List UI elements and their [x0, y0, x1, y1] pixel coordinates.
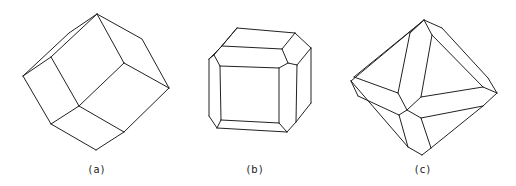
crystal-edge [421, 118, 431, 148]
crystal-edge [97, 14, 169, 88]
crystal-edge [220, 66, 279, 68]
crystal-edge [221, 120, 279, 123]
crystal-edge [407, 110, 421, 118]
crystal-edge [351, 81, 408, 147]
crystal-edge [483, 93, 497, 106]
crystal-edge [296, 65, 297, 122]
crystal-edge [237, 28, 295, 33]
figure-c-truncated-octahedron [351, 20, 497, 155]
figure-label-c: (c) [415, 164, 431, 175]
crystal-edge [279, 123, 287, 132]
crystal-figures-canvas [0, 0, 516, 186]
crystal-edge [96, 132, 124, 150]
crystal-edge [296, 103, 311, 122]
crystal-edge [220, 66, 221, 120]
crystal-edge [398, 93, 407, 110]
crystal-edge [51, 124, 96, 150]
crystal-edge [424, 20, 442, 28]
crystal-edge [217, 120, 221, 128]
crystal-edge [209, 116, 217, 128]
crystal-edge [282, 33, 295, 49]
crystal-edge [288, 63, 297, 65]
figure-label-b: (b) [246, 164, 263, 175]
crystal-edge [23, 76, 51, 124]
crystal-edge [407, 97, 421, 110]
crystal-edge [124, 88, 169, 132]
crystal-edge [282, 49, 288, 63]
crystal-edge [51, 57, 79, 106]
crystal-edge [399, 110, 407, 115]
figure-a-rhombic-dodecahedron [23, 14, 169, 150]
crystal-edge [351, 20, 424, 81]
crystal-edge [51, 106, 79, 124]
crystal-edge [408, 147, 422, 155]
crystal-edge [23, 14, 97, 76]
crystal-edge [422, 148, 431, 155]
crystal-edge [421, 35, 432, 97]
crystal-edge [217, 128, 287, 132]
crystal-edge [442, 28, 488, 78]
crystal-edge [432, 35, 483, 87]
crystal-edge [354, 77, 398, 93]
crystal-edge [79, 63, 124, 106]
crystal-edge [79, 106, 124, 132]
figure-label-a: (a) [89, 164, 106, 175]
crystal-edge [279, 63, 288, 68]
crystal-edge [431, 106, 483, 148]
crystal-edge [398, 33, 410, 93]
crystal-edge [214, 55, 220, 66]
crystal-edge [287, 122, 296, 132]
crystal-edge [295, 33, 311, 48]
crystal-edge [23, 14, 97, 76]
crystal-edge [209, 55, 214, 59]
crystal-edge [421, 87, 483, 97]
crystal-edge [222, 46, 282, 49]
crystal-edge [410, 20, 424, 33]
figure-b-truncated-cube [209, 28, 311, 132]
crystal-edge [297, 48, 311, 65]
crystal-edge [421, 106, 483, 118]
